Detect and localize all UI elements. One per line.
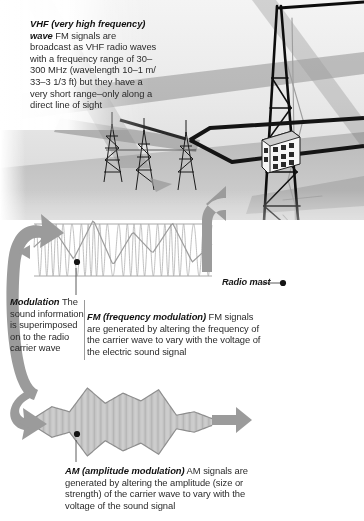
callout-vhf-body: FM signals are broadcast as VHF radio wa… [30,30,156,111]
callout-modulation-lead: Modulation [10,296,60,307]
callout-dot-icon [280,280,286,286]
callout-vhf: VHF (very high frequency) wave FM signal… [30,18,158,111]
callout-fm-lead: FM (frequency modulation) [87,311,206,322]
radio-mast-label: Radio mast [222,277,271,287]
callout-am-lead: AM (amplitude modulation) [65,465,185,476]
figure-canvas: VHF (very high frequency) wave FM signal… [0,0,364,521]
callout-fm: FM (frequency modulation) FM signals are… [87,311,267,357]
callout-dot-icon [74,259,80,265]
callout-dot-icon [189,137,194,142]
callout-am: AM (amplitude modulation) AM signals are… [65,465,260,511]
callout-modulation: Modulation The sound information is supe… [10,296,84,354]
callout-dot-icon [74,431,80,437]
text-divider [84,300,85,360]
